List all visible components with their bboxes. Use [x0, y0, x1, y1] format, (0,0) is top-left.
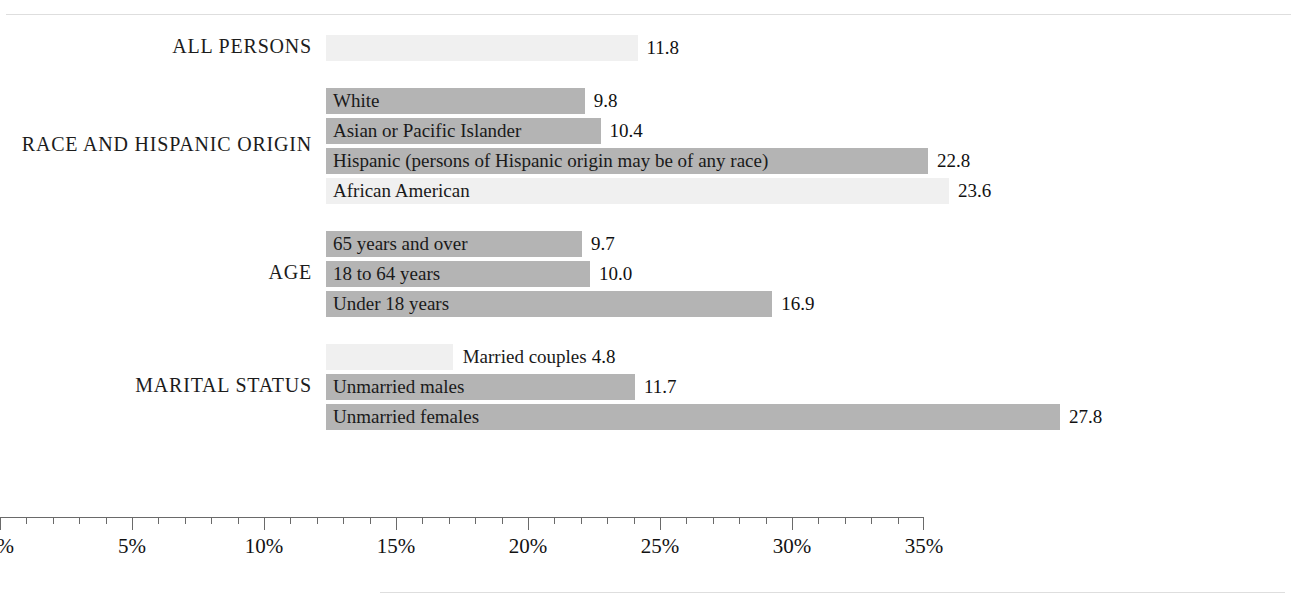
bar-label: Married couples4.8: [453, 344, 616, 370]
axis-tick-minor: [686, 517, 687, 524]
bar-label: African American: [326, 178, 470, 204]
bar-label: Hispanic (persons of Hispanic origin may…: [326, 148, 768, 174]
axis-tick-minor: [106, 517, 107, 524]
axis-tick-major: [0, 517, 1, 530]
bar-value: 23.6: [949, 178, 991, 204]
bar-label: Under 18 years: [326, 291, 449, 317]
axis-tick-minor: [713, 517, 714, 524]
group-label-marital-status: MARITAL STATUS: [135, 374, 312, 397]
group-label-race-and-hispanic-origin: RACE AND HISPANIC ORIGIN: [22, 133, 312, 156]
axis-tick-major: [923, 517, 924, 530]
bar-row[interactable]: Unmarried females27.8: [326, 404, 1250, 430]
axis-tick-label: 25%: [641, 534, 680, 559]
axis-tick-minor: [238, 517, 239, 524]
axis-tick-minor: [581, 517, 582, 524]
group-label-age: AGE: [268, 261, 312, 284]
axis-tick-label: 10%: [245, 534, 284, 559]
axis-tick-label: 5%: [118, 534, 146, 559]
axis-tick-major: [132, 517, 133, 530]
bar-label: 65 years and over: [326, 231, 468, 257]
axis-tick-major: [792, 517, 793, 530]
bar-row[interactable]: Hispanic (persons of Hispanic origin may…: [326, 148, 1250, 174]
axis-tick-minor: [317, 517, 318, 524]
axis-tick-minor: [79, 517, 80, 524]
x-axis-line: [0, 517, 924, 518]
axis-tick-minor: [818, 517, 819, 524]
axis-tick-minor: [607, 517, 608, 524]
axis-tick-minor: [343, 517, 344, 524]
axis-tick-minor: [634, 517, 635, 524]
bar-value: 11.7: [635, 374, 677, 400]
axis-tick-minor: [502, 517, 503, 524]
axis-tick-minor: [370, 517, 371, 524]
bar-value: 22.8: [928, 148, 970, 174]
bar-value: 4.8: [587, 346, 616, 367]
bar-value: 9.7: [582, 231, 615, 257]
bar-label: Asian or Pacific Islander: [326, 118, 521, 144]
axis-tick-major: [528, 517, 529, 530]
bar-row[interactable]: African American23.6: [326, 178, 1250, 204]
axis-tick-minor: [211, 517, 212, 524]
bar[interactable]: [326, 344, 453, 370]
bar-row[interactable]: White9.8: [326, 88, 1250, 114]
x-axis: 0%5%10%15%20%25%30%35%: [0, 517, 924, 577]
axis-tick-label: 30%: [773, 534, 812, 559]
axis-tick-minor: [185, 517, 186, 524]
bar-row[interactable]: Asian or Pacific Islander10.4: [326, 118, 1250, 144]
bar-label: White: [326, 88, 379, 114]
bar-row[interactable]: Married couples4.8: [326, 344, 1250, 370]
bar-row[interactable]: 18 to 64 years10.0: [326, 261, 1250, 287]
axis-tick-minor: [53, 517, 54, 524]
axis-tick-label: 15%: [377, 534, 416, 559]
bar-label: Unmarried males: [326, 374, 464, 400]
bar-value: 9.8: [585, 88, 618, 114]
bar-row[interactable]: 65 years and over9.7: [326, 231, 1250, 257]
axis-tick-major: [264, 517, 265, 530]
axis-tick-label: 0%: [0, 534, 14, 559]
axis-tick-minor: [845, 517, 846, 524]
bar-label: Unmarried females: [326, 404, 479, 430]
group-label-all-persons: ALL PERSONS: [172, 35, 312, 58]
bar-row[interactable]: Under 18 years16.9: [326, 291, 1250, 317]
chart-figure: ALL PERSONSRACE AND HISPANIC ORIGINAGEMA…: [0, 0, 1297, 609]
bar-value: 10.0: [590, 261, 632, 287]
axis-tick-minor: [26, 517, 27, 524]
axis-tick-minor: [554, 517, 555, 524]
bar-label-text: Married couples: [463, 346, 587, 367]
axis-tick-minor: [871, 517, 872, 524]
axis-tick-minor: [475, 517, 476, 524]
bar-value: 10.4: [601, 118, 643, 144]
bar-value: 11.8: [638, 35, 680, 61]
axis-tick-minor: [739, 517, 740, 524]
bar[interactable]: [326, 35, 638, 61]
axis-tick-minor: [422, 517, 423, 524]
axis-tick-label: 35%: [905, 534, 944, 559]
bar-label: 18 to 64 years: [326, 261, 440, 287]
axis-tick-minor: [290, 517, 291, 524]
axis-tick-minor: [898, 517, 899, 524]
axis-tick-minor: [158, 517, 159, 524]
axis-tick-label: 20%: [509, 534, 548, 559]
bar-value: 27.8: [1060, 404, 1102, 430]
axis-tick-minor: [766, 517, 767, 524]
bar-row[interactable]: Unmarried males11.7: [326, 374, 1250, 400]
axis-tick-major: [396, 517, 397, 530]
bar-row[interactable]: 11.8: [326, 35, 1250, 61]
axis-tick-major: [660, 517, 661, 530]
axis-tick-minor: [449, 517, 450, 524]
bar-value: 16.9: [772, 291, 814, 317]
